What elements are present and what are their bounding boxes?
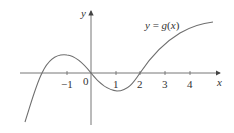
tick-label-neg1: −1 bbox=[61, 79, 73, 90]
tick-label-1: 1 bbox=[113, 79, 119, 90]
tick-label-0: 0 bbox=[83, 76, 89, 87]
function-curve bbox=[25, 22, 213, 122]
function-label: y = g(x) bbox=[145, 20, 179, 31]
tick-label-2: 2 bbox=[137, 79, 143, 90]
y-axis-label: y bbox=[81, 8, 86, 19]
graph-canvas bbox=[0, 0, 234, 133]
tick-label-3: 3 bbox=[162, 79, 168, 90]
x-axis-label: x bbox=[217, 77, 222, 88]
tick-label-4: 4 bbox=[187, 79, 193, 90]
